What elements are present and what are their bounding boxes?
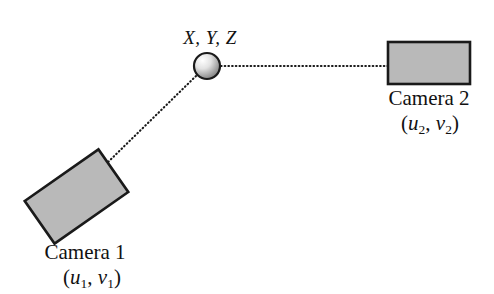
camera-2-body [388,42,470,84]
point-label: X, Y, Z [183,28,237,47]
camera-2-coords-v-sub: 2 [445,122,452,137]
camera-1-coords-sep: , [87,265,98,289]
camera-1-coords-close: ) [114,265,121,289]
point-sphere [194,53,220,79]
camera-2-coords-sep: , [425,111,436,135]
camera-1-coords-v: v [98,265,107,289]
camera-1-coords-v-sub: 1 [107,276,114,291]
camera-2-coords-open: ( [401,111,408,135]
camera-2-label: Camera 2 [388,88,469,109]
diagram-canvas: X, Y, Z Camera 1 (u1, v1) Camera 2 (u2, … [0,0,494,294]
camera-1-coords-open: ( [63,265,70,289]
camera-1-coords: (u1, v1) [63,267,121,290]
camera-1-body [25,149,129,243]
camera-2-coords: (u2, v2) [401,113,459,136]
camera-1-label: Camera 1 [44,242,125,263]
ray-to-camera-1 [103,76,196,167]
camera-2-coords-v: v [436,111,445,135]
camera-2-coords-u: u [408,111,419,135]
camera-1-coords-u: u [70,265,81,289]
camera-2-coords-close: ) [452,111,459,135]
